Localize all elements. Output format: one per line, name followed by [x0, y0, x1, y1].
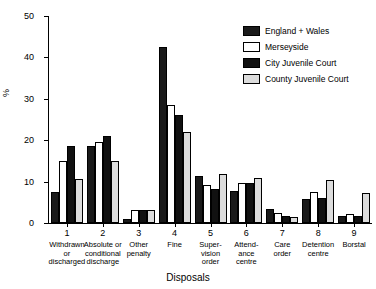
bar	[75, 179, 83, 223]
x-tick-label: 6	[226, 228, 266, 238]
bar-group	[195, 16, 227, 223]
legend-label: England + Wales	[265, 26, 329, 36]
legend-swatch-icon	[243, 74, 260, 84]
bar-group	[159, 16, 191, 223]
legend-item[interactable]: England + Wales	[243, 26, 349, 36]
bar	[203, 185, 211, 223]
bar	[175, 115, 183, 223]
y-tick-label: 0	[0, 219, 34, 228]
x-tick-label: 7	[262, 228, 302, 238]
x-tick-label: 8	[298, 228, 338, 238]
bar	[338, 216, 346, 223]
bar-chart: % 01020304050 1Withdrawnordischarged2Abs…	[0, 0, 376, 289]
legend-label: County Juvenile Court	[265, 74, 349, 84]
x-tick-label: 5	[191, 228, 231, 238]
bar	[230, 191, 238, 223]
bar	[318, 198, 326, 223]
bar	[183, 132, 191, 223]
y-tick-label: 10	[0, 178, 34, 187]
bar	[123, 219, 131, 223]
x-category-label-line: penalty	[116, 250, 162, 259]
y-tick-label: 40	[0, 53, 34, 62]
bar	[254, 178, 262, 223]
bar	[346, 214, 354, 223]
x-tick-mark	[318, 223, 319, 227]
y-tick-label: 50	[0, 12, 34, 21]
bar	[95, 142, 103, 223]
x-tick-mark	[103, 223, 104, 227]
x-tick-mark	[354, 223, 355, 227]
bar	[147, 210, 155, 223]
bar	[159, 47, 167, 223]
bar	[282, 216, 290, 223]
x-category-label: Borstal	[331, 241, 376, 250]
x-tick-mark	[211, 223, 212, 227]
bar	[246, 183, 254, 223]
bar	[290, 217, 298, 223]
x-tick-mark	[282, 223, 283, 227]
legend-swatch-icon	[243, 26, 260, 36]
x-tick-label: 9	[334, 228, 374, 238]
bar-group	[123, 16, 155, 223]
legend-label: Merseyside	[265, 42, 308, 52]
bar	[195, 176, 203, 223]
x-axis-title: Disposals	[0, 272, 376, 283]
x-category-label-line: centre	[295, 250, 341, 259]
bar	[131, 210, 139, 223]
legend-swatch-icon	[243, 58, 260, 68]
x-tick-mark	[139, 223, 140, 227]
x-category-label-line: discharge	[80, 258, 126, 267]
bar	[67, 146, 75, 223]
x-category-label-line: centre	[223, 258, 269, 267]
x-tick-mark	[67, 223, 68, 227]
legend-label: City Juvenile Court	[265, 58, 336, 68]
x-category-label-line: Borstal	[331, 241, 376, 250]
bar	[139, 210, 147, 223]
y-tick-label: 20	[0, 136, 34, 145]
x-tick-label: 2	[83, 228, 123, 238]
bar	[362, 193, 370, 223]
x-tick-mark	[246, 223, 247, 227]
legend-item[interactable]: County Juvenile Court	[243, 74, 349, 84]
bar	[238, 183, 246, 223]
bar	[87, 146, 95, 223]
x-tick-label: 4	[155, 228, 195, 238]
bar	[354, 216, 362, 223]
bar	[59, 161, 67, 223]
legend-swatch-icon	[243, 42, 260, 52]
bar	[219, 174, 227, 223]
bar	[167, 105, 175, 223]
bar	[51, 192, 59, 223]
x-tick-label: 3	[119, 228, 159, 238]
bar	[326, 180, 334, 223]
bar	[310, 192, 318, 223]
bar	[111, 161, 119, 223]
chart-legend: England + WalesMerseysideCity Juvenile C…	[243, 26, 349, 84]
bar	[274, 213, 282, 223]
bar	[266, 209, 274, 223]
legend-item[interactable]: City Juvenile Court	[243, 58, 349, 68]
x-tick-mark	[175, 223, 176, 227]
x-tick-label: 1	[47, 228, 87, 238]
legend-item[interactable]: Merseyside	[243, 42, 349, 52]
bar	[103, 136, 111, 223]
bar	[302, 199, 310, 223]
bar-group	[51, 16, 83, 223]
bar-group	[87, 16, 119, 223]
y-tick-label: 30	[0, 95, 34, 104]
bar	[211, 189, 219, 223]
